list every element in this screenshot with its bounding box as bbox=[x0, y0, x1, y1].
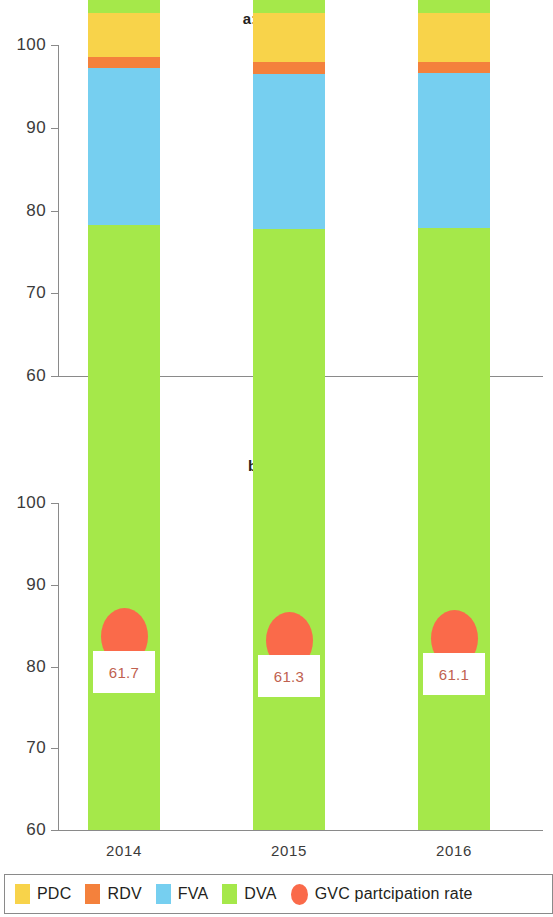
bar-segment-dva[interactable] bbox=[418, 228, 490, 830]
y-axis-tick-label: 70 bbox=[0, 283, 46, 303]
y-axis-tick bbox=[51, 667, 58, 668]
y-axis-tick bbox=[51, 376, 58, 377]
bar-segment-fva[interactable] bbox=[418, 73, 490, 228]
bar-segment-dva[interactable] bbox=[253, 229, 325, 830]
bar-segment-rdv[interactable] bbox=[253, 62, 325, 73]
bar-segment-pdc[interactable] bbox=[418, 13, 490, 63]
legend-item-fva[interactable]: FVA bbox=[156, 884, 209, 904]
bar-segment-fva[interactable] bbox=[88, 68, 160, 225]
bar-segment-dva[interactable] bbox=[88, 225, 160, 830]
y-axis-line bbox=[58, 503, 59, 830]
y-axis-tick-label: 80 bbox=[0, 657, 46, 677]
y-axis-tick bbox=[51, 45, 58, 46]
gvc-participation-value: 61.7 bbox=[93, 651, 155, 693]
gvc-participation-value: 61.1 bbox=[423, 653, 485, 695]
legend-item-dva[interactable]: DVA bbox=[222, 884, 276, 904]
bar-segment-pdc[interactable] bbox=[88, 13, 160, 58]
y-axis-tick-label: 100 bbox=[0, 493, 46, 513]
y-axis-tick bbox=[51, 503, 58, 504]
y-axis-tick-label: 60 bbox=[0, 366, 46, 386]
gvc-participation-value: 61.3 bbox=[258, 655, 320, 697]
legend-item-gvc[interactable]: GVC partcipation rate bbox=[291, 884, 473, 905]
legend-square-icon bbox=[15, 884, 30, 904]
legend-square-icon bbox=[222, 884, 237, 904]
legend-item-rdv[interactable]: RDV bbox=[85, 884, 141, 904]
y-axis-tick-label: 90 bbox=[0, 575, 46, 595]
legend-ellipse-icon bbox=[291, 884, 308, 905]
panel-asia: b: Asia 1009080706061.7201461.3201561.12… bbox=[0, 445, 547, 865]
x-axis-line bbox=[58, 830, 543, 831]
legend-label: GVC partcipation rate bbox=[315, 885, 473, 903]
y-axis-tick bbox=[51, 748, 58, 749]
bar-segment-rdv[interactable] bbox=[418, 62, 490, 73]
y-axis-tick bbox=[51, 211, 58, 212]
bar-segment-pdc[interactable] bbox=[253, 13, 325, 63]
y-axis-tick bbox=[51, 830, 58, 831]
y-axis-line bbox=[58, 45, 59, 376]
y-axis-tick-label: 100 bbox=[0, 35, 46, 55]
legend-square-icon bbox=[156, 884, 171, 904]
y-axis-tick bbox=[51, 128, 58, 129]
legend-square-icon bbox=[85, 884, 100, 904]
y-axis-tick-label: 80 bbox=[0, 201, 46, 221]
y-axis-tick bbox=[51, 585, 58, 586]
y-axis-tick-label: 70 bbox=[0, 738, 46, 758]
legend-label: DVA bbox=[244, 885, 276, 903]
plot-area-asia: 1009080706061.7201461.3201561.12016 bbox=[0, 445, 547, 865]
legend-label: FVA bbox=[178, 885, 209, 903]
legend-label: RDV bbox=[107, 885, 141, 903]
x-axis-category-label: 2015 bbox=[239, 842, 339, 859]
bar-segment-rdv[interactable] bbox=[88, 57, 160, 68]
y-axis-tick-label: 60 bbox=[0, 820, 46, 840]
legend: PDCRDVFVADVAGVC partcipation rate bbox=[4, 874, 553, 914]
legend-item-pdc[interactable]: PDC bbox=[15, 884, 71, 904]
x-axis-category-label: 2016 bbox=[404, 842, 504, 859]
bar-segment-fva[interactable] bbox=[253, 74, 325, 229]
x-axis-category-label: 2014 bbox=[74, 842, 174, 859]
y-axis-tick-label: 90 bbox=[0, 118, 46, 138]
legend-label: PDC bbox=[37, 885, 71, 903]
y-axis-tick bbox=[51, 293, 58, 294]
